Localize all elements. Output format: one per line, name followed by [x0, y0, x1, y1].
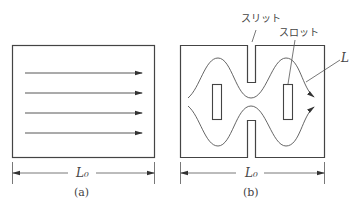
dimension-label-b: L₀ — [244, 166, 258, 180]
conductor-rect-a — [13, 46, 155, 158]
current-path-bottom — [188, 106, 314, 146]
label-slot: スロット — [279, 27, 319, 38]
panel-b: スリット スロット L L₀ (b) — [181, 13, 350, 199]
caption-b: (b) — [243, 186, 259, 199]
leader-slit — [252, 30, 256, 42]
panel-a: L₀ (a) — [13, 46, 155, 200]
label-slit: スリット — [241, 13, 281, 24]
conductor-outline-b — [181, 46, 325, 158]
caption-a: (a) — [74, 186, 89, 199]
slot-right — [284, 85, 293, 120]
label-path-L: L — [340, 51, 349, 65]
dimension-label-a: L₀ — [75, 166, 89, 180]
slot-left — [213, 85, 222, 120]
figure: L₀ (a) スリット スロット L L₀ (b) — [0, 0, 360, 206]
leader-path-L — [306, 60, 340, 82]
current-path-top — [188, 58, 314, 98]
field-lines-a — [25, 73, 142, 133]
